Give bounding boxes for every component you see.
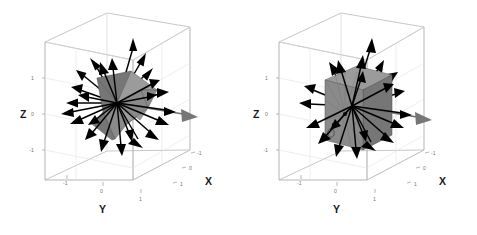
right-y-tick-1: 1: [373, 196, 376, 202]
right-z-tick-neg1: -1: [263, 147, 268, 153]
figure-container: 1 0 -1 Z -1 0 1 Y -1 0 1 X: [0, 0, 477, 235]
right-axis-label-z: Z: [253, 108, 260, 120]
right-x-tick-0: 0: [423, 165, 426, 171]
left-z-tick-1: 1: [31, 75, 34, 81]
left-axis-label-x: X: [205, 175, 212, 187]
right-3d-plot-svg: 1 0 -1 Z -1 0 1 Y -1 0 1 X: [239, 0, 477, 235]
right-z-tick-0: 0: [265, 111, 268, 117]
left-axis-label-z: Z: [20, 108, 27, 120]
left-y-tick-1: 1: [139, 196, 142, 202]
plot-panel-right: 1 0 -1 Z -1 0 1 Y -1 0 1 X: [239, 0, 477, 235]
right-y-tick-0: 0: [334, 188, 337, 194]
left-z-tick-neg1: -1: [29, 147, 34, 153]
left-y-axis: -1 0 1 Y: [63, 175, 142, 215]
right-axis-label-y: Y: [333, 203, 340, 215]
plot-panel-left: 1 0 -1 Z -1 0 1 Y -1 0 1 X: [0, 0, 238, 235]
right-y-axis: -1 0 1 Y: [297, 175, 376, 215]
right-x-tick-neg1: -1: [431, 150, 436, 156]
right-z-axis: 1 0 -1 Z: [253, 75, 279, 153]
left-z-axis: 1 0 -1 Z: [20, 75, 45, 153]
left-axis-label-y: Y: [99, 203, 106, 215]
right-z-tick-1: 1: [265, 75, 268, 81]
left-3d-plot-svg: 1 0 -1 Z -1 0 1 Y -1 0 1 X: [0, 0, 238, 235]
left-y-tick-0: 0: [100, 188, 103, 194]
left-y-tick-neg1: -1: [63, 180, 68, 186]
left-z-tick-0: 0: [31, 111, 34, 117]
left-x-tick-1: 1: [180, 181, 183, 187]
right-axis-label-x: X: [439, 175, 446, 187]
left-x-tick-0: 0: [189, 165, 192, 171]
left-x-tick-neg1: -1: [197, 150, 202, 156]
right-x-tick-1: 1: [414, 181, 417, 187]
right-y-tick-neg1: -1: [297, 180, 302, 186]
